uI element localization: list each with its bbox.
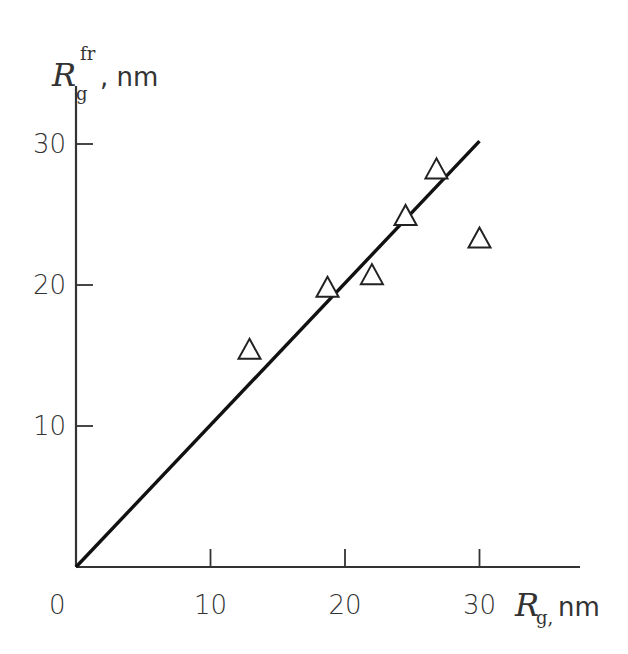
triangle-marker <box>469 227 491 247</box>
fit-line <box>76 141 480 567</box>
x-axis-title-unit: nm <box>558 592 600 622</box>
y-tick-label: 30 <box>33 129 66 159</box>
origin-label: 0 <box>49 590 66 620</box>
y-tick-label: 10 <box>33 411 66 441</box>
x-tick-label: 30 <box>463 590 496 620</box>
triangle-marker <box>317 277 339 297</box>
data-points <box>239 158 491 358</box>
triangle-marker <box>425 158 447 178</box>
y-axis-title-sub: g <box>76 83 88 104</box>
x-tick-label: 10 <box>194 590 227 620</box>
triangle-marker <box>361 264 383 284</box>
axes: 102030102030 <box>33 86 580 620</box>
y-axis-title: R <box>51 56 76 94</box>
y-tick-label: 20 <box>33 270 66 300</box>
x-tick-label: 20 <box>328 590 361 620</box>
triangle-marker <box>239 339 261 359</box>
y-axis-title-sup: fr <box>80 43 96 64</box>
triangle-marker <box>395 205 417 225</box>
axis-labels: R g fr , nm R g, nm 0 <box>49 43 600 628</box>
y-axis-title-unit: , nm <box>100 62 158 92</box>
x-axis-title-sub: g, <box>536 607 553 628</box>
scatter-chart: 102030102030 R g fr , nm R g, nm 0 <box>0 0 628 654</box>
fit-line-segment <box>76 141 480 567</box>
